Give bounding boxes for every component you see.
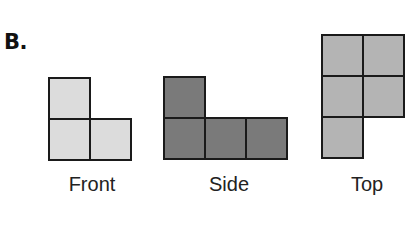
top-cell — [321, 116, 364, 159]
front-cell — [89, 118, 132, 161]
side-cell — [163, 76, 206, 119]
front-cell — [48, 77, 91, 120]
side-cell — [204, 117, 247, 160]
side-cell — [163, 117, 206, 160]
top-cell — [362, 34, 405, 77]
side-cell — [245, 117, 288, 160]
top-cell — [362, 75, 405, 118]
top-caption: Top — [307, 173, 417, 196]
part-label: B. — [4, 30, 27, 54]
top-cell — [321, 75, 364, 118]
front-caption: Front — [32, 173, 152, 196]
front-cell — [48, 118, 91, 161]
top-cell — [321, 34, 364, 77]
side-caption: Side — [169, 173, 289, 196]
